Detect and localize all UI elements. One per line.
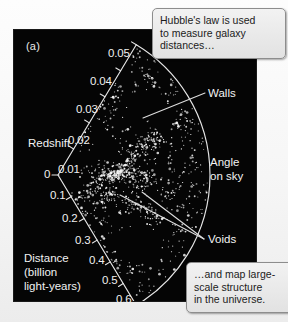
distance-tick-0.2: 0.2 (62, 212, 77, 224)
callout-large-scale-structure: …and map large- scale structure in the u… (186, 262, 288, 313)
plot-panel: (a) Redshift 0.05 0.04 0.03 0.02 0.01 0 … (14, 30, 256, 301)
redshift-tick-0.03: 0.03 (76, 103, 98, 115)
figure-root: (a) Redshift 0.05 0.04 0.03 0.02 0.01 0 … (0, 0, 288, 322)
distance-tick-0.1: 0.1 (50, 189, 65, 201)
callout-bottom-line2: scale structure (194, 281, 286, 294)
redshift-tick-0.05: 0.05 (108, 47, 130, 59)
redshift-tick-0.02: 0.02 (68, 134, 90, 146)
callout-hubble-law: Hubble's law is used to measure galaxy d… (152, 8, 286, 59)
distance-tick-0.4: 0.4 (89, 254, 104, 266)
redshift-tick-0.01: 0.01 (58, 163, 80, 175)
distance-tick-0.5: 0.5 (102, 274, 117, 286)
distance-axis-title-line2: (billion (24, 266, 57, 279)
distance-tick-0.3: 0.3 (75, 234, 90, 246)
walls-annotation-label: Walls (208, 87, 236, 100)
origin-tick-0: 0 (44, 168, 50, 180)
distance-axis-title-line3: light-years) (24, 280, 81, 293)
callout-bottom-line3: in the universe. (194, 293, 286, 306)
angle-axis-title-line2: on sky (210, 170, 243, 183)
voids-annotation-label: Voids (208, 233, 236, 246)
redshift-axis-title: Redshift (28, 137, 70, 150)
distance-tick-0.6: 0.6 (116, 293, 131, 305)
annotation-pointer-lines (120, 93, 205, 239)
callout-bottom-line1: …and map large- (194, 268, 286, 281)
angle-axis-title-line1: Angle (210, 156, 239, 169)
callout-top-line3: distances… (160, 39, 278, 52)
callout-top-line1: Hubble's law is used (160, 14, 278, 27)
panel-label: (a) (26, 40, 40, 52)
distance-axis-title-line1: Distance (24, 252, 69, 265)
redshift-tick-0.04: 0.04 (90, 75, 112, 87)
callout-top-line2: to measure galaxy (160, 27, 278, 40)
plot-panel-inner: (a) Redshift 0.05 0.04 0.03 0.02 0.01 0 … (14, 30, 256, 301)
